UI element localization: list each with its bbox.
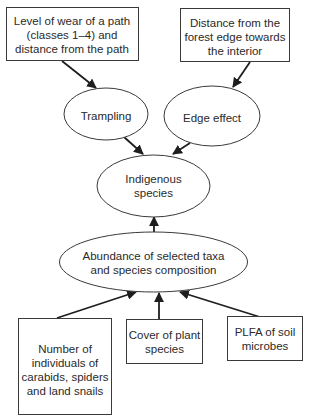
node-plfa-soil-microbes-line-2: microbes: [242, 340, 289, 352]
node-number-of-individuals-line-4: and land snails: [27, 385, 104, 397]
node-number-of-individuals-line-2: individuals of: [32, 357, 99, 369]
node-abundance-line-1: Abundance of selected taxa: [83, 250, 226, 262]
node-number-of-individuals-line-1: Number of: [38, 343, 92, 355]
arrow-plfa-to-abundance: [180, 292, 260, 317]
node-edge-effect: Edge effect: [164, 86, 260, 146]
node-indigenous-species-line-1: Indigenous: [125, 173, 182, 185]
node-number-of-individuals: Number of individuals of carabids, spide…: [19, 319, 112, 415]
arrow-trampling-to-indigenous: [124, 137, 143, 154]
node-cover-of-plant-species: Cover of plant species: [127, 320, 203, 364]
node-distance-from-edge-line-1: Distance from the: [190, 17, 280, 29]
node-cover-of-plant-species-line-2: species: [145, 343, 184, 355]
node-abundance: Abundance of selected taxa and species c…: [60, 232, 248, 292]
node-distance-from-edge: Distance from the forest edge towards th…: [181, 9, 290, 62]
arrow-edge-effect-to-indigenous: [173, 143, 190, 154]
node-abundance-ellipse: [60, 232, 248, 292]
arrow-wear-to-trampling: [62, 61, 96, 88]
node-plfa-soil-microbes-line-1: PLFA of soil: [235, 326, 296, 338]
arrow-individuals-to-abundance: [57, 292, 136, 318]
node-level-of-wear-line-3: distance from the path: [15, 43, 129, 55]
node-indigenous-species-line-2: species: [134, 187, 173, 199]
node-distance-from-edge-line-3: the interior: [208, 45, 263, 57]
node-plfa-soil-microbes-box: [228, 317, 303, 361]
causal-diagram: Level of wear of a path (classes 1–4) an…: [0, 0, 310, 420]
arrow-distance-to-edge-effect: [233, 62, 250, 87]
node-plfa-soil-microbes: PLFA of soil microbes: [228, 317, 303, 361]
node-indigenous-species-ellipse: [97, 155, 210, 217]
node-cover-of-plant-species-box: [127, 320, 203, 364]
node-number-of-individuals-line-3: carabids, spiders: [22, 371, 109, 383]
node-trampling: Trampling: [64, 88, 148, 140]
node-level-of-wear: Level of wear of a path (classes 1–4) an…: [7, 8, 139, 61]
node-level-of-wear-line-2: (classes 1–4) and: [27, 29, 118, 41]
node-level-of-wear-line-1: Level of wear of a path: [14, 15, 130, 27]
node-indigenous-species: Indigenous species: [97, 155, 210, 217]
node-cover-of-plant-species-line-1: Cover of plant: [129, 329, 201, 341]
node-edge-effect-label: Edge effect: [183, 112, 242, 124]
node-distance-from-edge-line-2: forest edge towards: [184, 31, 285, 43]
node-abundance-line-2: and species composition: [91, 264, 217, 276]
node-trampling-label: Trampling: [81, 110, 132, 122]
